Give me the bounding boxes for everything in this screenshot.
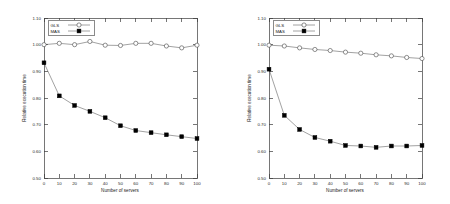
- y-tick-label: 1.10: [32, 16, 41, 21]
- data-point-mas: [344, 144, 348, 148]
- data-point-mas: [405, 144, 409, 148]
- x-axis-title-left: Number of servers: [101, 188, 139, 193]
- legend-left: GLSMAS: [48, 20, 94, 35]
- data-point-gls: [420, 56, 424, 60]
- x-tick-label: 40: [328, 181, 333, 186]
- x-tick-label: 80: [389, 181, 394, 186]
- x-tick-label: 0: [268, 181, 271, 186]
- x-tick-label: 50: [343, 181, 348, 186]
- data-point-mas: [195, 137, 199, 141]
- y-tick-label: 0.90: [257, 69, 266, 74]
- data-point-mas: [57, 94, 61, 98]
- data-point-gls: [164, 44, 168, 48]
- x-tick-label: 60: [358, 181, 363, 186]
- y-axis-ticks-right: 0.500.600.700.800.901.001.10: [257, 16, 422, 181]
- y-tick-label: 0.90: [32, 69, 41, 74]
- x-tick-label: 10: [282, 181, 287, 186]
- data-point-gls: [313, 47, 317, 51]
- data-point-mas: [42, 61, 46, 65]
- legend-right: GLSMAS: [273, 20, 319, 35]
- x-tick-label: 100: [418, 181, 426, 186]
- series-group-right: [267, 43, 424, 149]
- data-point-gls: [267, 43, 271, 47]
- data-point-gls: [103, 43, 107, 47]
- data-point-mas: [119, 124, 123, 128]
- data-point-gls: [57, 41, 61, 45]
- data-point-mas: [390, 144, 394, 148]
- data-point-gls: [134, 41, 138, 45]
- y-tick-label: 0.50: [32, 176, 41, 181]
- series-line-mas: [269, 69, 422, 147]
- data-point-gls: [42, 43, 46, 47]
- y-tick-label: 1.10: [257, 16, 266, 21]
- data-point-gls: [180, 46, 184, 50]
- data-point-mas: [313, 136, 317, 140]
- legend-label-mas: MAS: [51, 29, 60, 34]
- data-point-gls: [88, 39, 92, 43]
- data-point-gls: [195, 43, 199, 47]
- data-point-mas: [134, 129, 138, 133]
- plot-frame-right: [269, 18, 422, 178]
- y-tick-label: 0.70: [257, 122, 266, 127]
- data-point-mas: [420, 144, 424, 148]
- legend-label-mas: MAS: [276, 29, 285, 34]
- legend-label-gls: GLS: [51, 23, 60, 28]
- plot-frame-left: [44, 18, 197, 178]
- data-point-gls: [343, 50, 347, 54]
- y-tick-label: 1.00: [32, 42, 41, 47]
- data-point-mas: [73, 104, 77, 108]
- legend-marker-mas: [77, 29, 81, 33]
- y-tick-label: 0.70: [32, 122, 41, 127]
- y-tick-label: 0.50: [257, 176, 266, 181]
- data-point-mas: [374, 145, 378, 149]
- y-tick-label: 0.60: [257, 149, 266, 154]
- y-tick-label: 0.80: [257, 96, 266, 101]
- data-point-gls: [405, 55, 409, 59]
- x-tick-label: 20: [297, 181, 302, 186]
- data-point-mas: [88, 109, 92, 113]
- x-tick-label: 0: [43, 181, 46, 186]
- legend-marker-gls: [77, 23, 81, 27]
- x-tick-label: 100: [193, 181, 201, 186]
- y-tick-label: 1.00: [257, 42, 266, 47]
- x-axis-title-right: Number of servers: [326, 188, 364, 193]
- data-point-gls: [389, 54, 393, 58]
- y-tick-label: 0.80: [32, 96, 41, 101]
- line-chart-left: 0.500.600.700.800.901.001.10 01020304050…: [0, 0, 225, 204]
- data-point-gls: [359, 51, 363, 55]
- legend-label-gls: GLS: [276, 23, 285, 28]
- data-point-mas: [359, 144, 363, 148]
- x-tick-label: 90: [179, 181, 184, 186]
- x-axis-ticks-right: 0102030405060708090100: [268, 18, 426, 186]
- legend-marker-mas: [302, 29, 306, 33]
- chart-panel-right: 0.500.600.700.800.901.001.10 01020304050…: [225, 0, 450, 204]
- x-tick-label: 70: [374, 181, 379, 186]
- chart-panel-left: 0.500.600.700.800.901.001.10 01020304050…: [0, 0, 225, 204]
- y-tick-label: 0.60: [32, 149, 41, 154]
- x-tick-label: 40: [103, 181, 108, 186]
- x-tick-label: 10: [57, 181, 62, 186]
- line-chart-right: 0.500.600.700.800.901.001.10 01020304050…: [225, 0, 450, 204]
- data-point-gls: [282, 44, 286, 48]
- x-tick-label: 50: [118, 181, 123, 186]
- data-point-gls: [298, 46, 302, 50]
- data-point-mas: [282, 113, 286, 117]
- x-axis-ticks-left: 0102030405060708090100: [43, 18, 201, 186]
- y-axis-title-right: Relative execution time: [247, 74, 252, 122]
- x-tick-label: 70: [149, 181, 154, 186]
- data-point-gls: [73, 43, 77, 47]
- x-tick-label: 80: [164, 181, 169, 186]
- data-point-mas: [298, 128, 302, 132]
- data-point-mas: [165, 133, 169, 137]
- data-point-gls: [118, 43, 122, 47]
- series-group-left: [42, 39, 199, 140]
- data-point-mas: [180, 135, 184, 139]
- x-tick-label: 30: [87, 181, 92, 186]
- x-tick-label: 90: [404, 181, 409, 186]
- figure-container: 0.500.600.700.800.901.001.10 01020304050…: [0, 0, 450, 204]
- data-point-gls: [374, 53, 378, 57]
- data-point-gls: [149, 41, 153, 45]
- data-point-mas: [267, 67, 271, 71]
- data-point-gls: [328, 48, 332, 52]
- data-point-mas: [103, 116, 107, 120]
